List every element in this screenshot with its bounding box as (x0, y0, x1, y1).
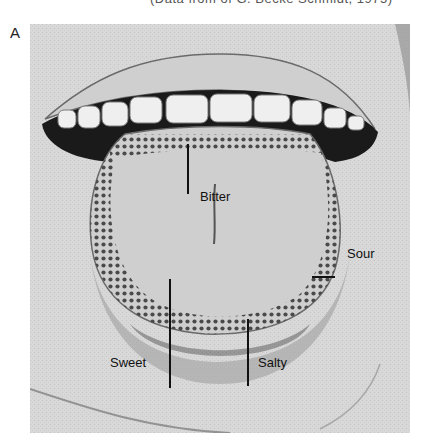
label-sour: Sour (347, 246, 374, 261)
label-sweet: Sweet (110, 355, 146, 370)
label-bitter: Bitter (200, 189, 230, 204)
tongue-diagram-svg (30, 24, 410, 433)
tongue-illustration (30, 24, 410, 433)
panel-letter: A (10, 24, 20, 41)
figure-source-caption: (Data from of G. Becke Schmidt, 1975) (150, 0, 420, 6)
label-salty: Salty (258, 355, 287, 370)
